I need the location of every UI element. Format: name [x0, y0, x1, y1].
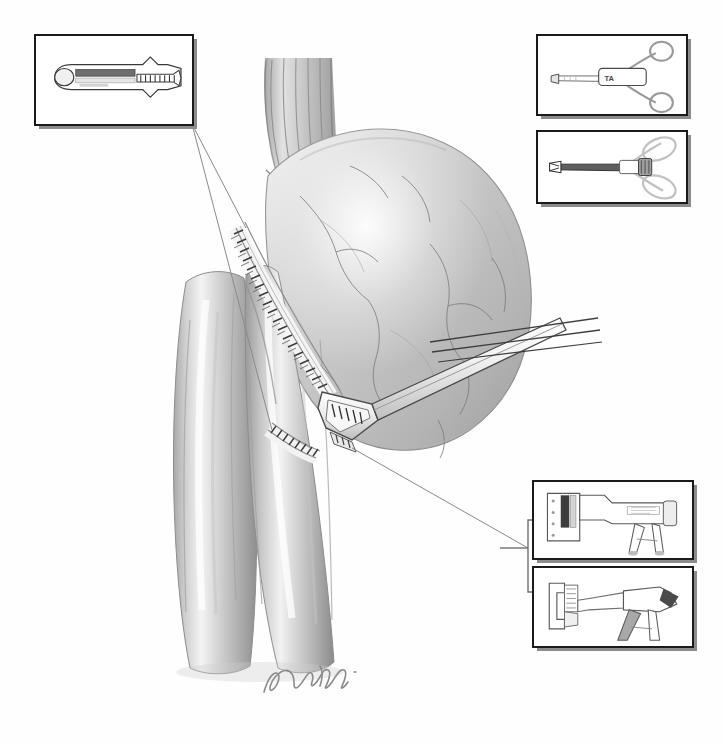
inset-ring-handle-grasper[interactable] — [536, 130, 688, 204]
inset-staple-cartridge-detail[interactable] — [34, 34, 194, 126]
ring-handle-stapler: TA — [551, 42, 673, 112]
artist-signature — [258, 656, 386, 700]
inset-pistol-grip-linear-stapler[interactable] — [532, 480, 694, 560]
stapler-body-marking: TA — [604, 74, 614, 83]
staple-cartridge-detail — [55, 57, 181, 97]
inset-ring-handle-stapler[interactable]: TA — [536, 34, 688, 116]
inset-pistol-grip-stapler-open-jaw[interactable] — [532, 566, 694, 648]
ring-handle-grasper — [550, 133, 679, 202]
pistol-grip-stapler-open-jaw — [549, 583, 678, 640]
pistol-grip-linear-stapler — [547, 493, 676, 555]
illustration-canvas: TA — [0, 0, 724, 743]
